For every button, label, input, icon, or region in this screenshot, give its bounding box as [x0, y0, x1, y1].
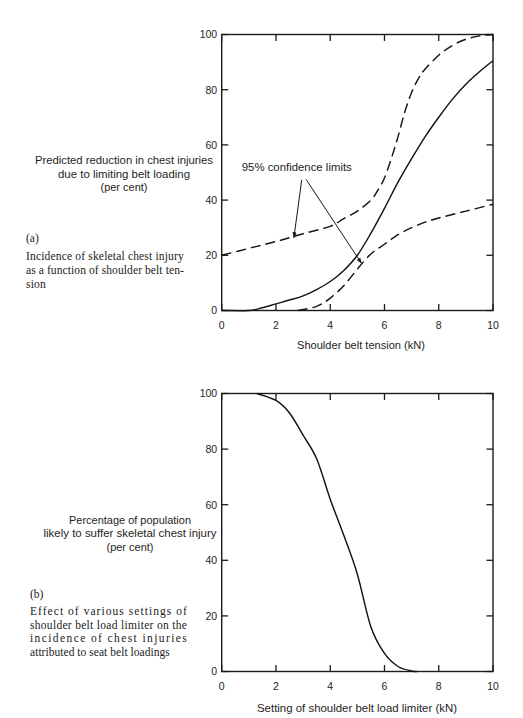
y-tick-label: 0	[211, 665, 217, 677]
x-tick-label: 6	[382, 319, 388, 331]
y-axis-label-line: (per cent)	[107, 541, 154, 553]
curve-population-injury	[257, 394, 417, 672]
caption-line: shoulder belt load limiter on the	[30, 619, 187, 631]
plot-frame	[222, 394, 493, 672]
curve-predicted-reduction	[222, 61, 493, 311]
annotation-label: 95% confidence limits	[242, 161, 353, 173]
y-tick-label: 60	[206, 499, 218, 511]
caption-line: incidence of chest injuries	[30, 632, 187, 645]
y-tick-label: 20	[206, 610, 218, 622]
x-tick-label: 0	[219, 680, 225, 692]
y-tick-label: 60	[206, 139, 218, 151]
curve-upper-confidence-limit	[222, 35, 493, 256]
curve-lower-confidence-limit	[298, 204, 493, 310]
panel-label-a: (a)	[26, 232, 39, 245]
x-tick-label: 10	[487, 319, 499, 331]
x-tick-label: 4	[327, 319, 333, 331]
axis-ticks	[222, 394, 493, 672]
caption-line: attributed to seat belt loadings	[30, 646, 170, 659]
caption-line: Effect of various settings of	[30, 605, 187, 618]
x-tick-label: 8	[436, 680, 442, 692]
y-tick-label: 80	[206, 84, 218, 96]
y-axis-label-line: (per cent)	[101, 181, 148, 193]
x-tick-label: 2	[273, 680, 279, 692]
caption-line: sion	[26, 278, 46, 290]
panel-a: Predicted reduction in chest injuries du…	[26, 28, 499, 351]
x-tick-label: 6	[382, 680, 388, 692]
y-axis-label-b: Percentage of population likely to suffe…	[44, 514, 218, 553]
x-axis-label-b: Setting of shoulder belt load limiter (k…	[257, 702, 457, 714]
y-tick-label: 0	[211, 304, 217, 316]
plot-area-b: 0246810020406080100	[200, 387, 499, 692]
y-tick-label: 40	[206, 554, 218, 566]
y-axis-label-line: Predicted reduction in chest injuries	[35, 154, 214, 166]
x-tick-label: 0	[219, 319, 225, 331]
x-tick-label: 4	[327, 680, 333, 692]
y-tick-label: 40	[206, 194, 218, 206]
panel-label-b: (b)	[30, 588, 44, 601]
caption-b: Effect of various settings of shoulder b…	[30, 605, 187, 659]
caption-line: Incidence of skeletal chest injury	[26, 250, 184, 263]
y-tick-label: 100	[200, 28, 218, 40]
caption-line: as a function of shoulder belt ten-	[26, 264, 184, 276]
x-tick-label: 2	[273, 319, 279, 331]
curves	[257, 394, 417, 672]
y-tick-label: 20	[206, 249, 218, 261]
y-axis-label-line: likely to suffer skeletal chest injury	[44, 527, 218, 539]
x-axis-label-a: Shoulder belt tension (kN)	[297, 339, 425, 351]
y-axis-label-line: due to limiting belt loading	[58, 168, 190, 180]
figure: Predicted reduction in chest injuries du…	[0, 0, 523, 718]
x-tick-label: 8	[436, 319, 442, 331]
panel-b: Percentage of population likely to suffe…	[30, 387, 499, 714]
y-axis-label-a: Predicted reduction in chest injuries du…	[35, 154, 214, 193]
caption-a: Incidence of skeletal chest injury as a …	[26, 250, 184, 290]
annotation-arrow-icon	[294, 180, 302, 238]
y-tick-label: 80	[206, 443, 218, 455]
x-tick-label: 10	[487, 680, 499, 692]
annotation-arrow-icon	[306, 179, 362, 263]
y-axis-label-line: Percentage of population	[69, 514, 191, 526]
y-tick-label: 100	[200, 387, 218, 399]
annotation-confidence-limits: 95% confidence limits	[242, 161, 362, 263]
plot-area-a: 0246810020406080100	[200, 28, 499, 331]
